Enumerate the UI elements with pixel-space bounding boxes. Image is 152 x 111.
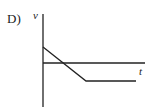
velocity-time-graph [0,0,152,111]
velocity-curve [43,47,136,81]
